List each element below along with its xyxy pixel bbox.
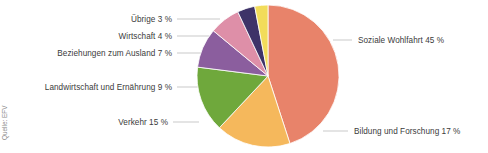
slice-label-wirtschaft: Wirtschaft 4 % bbox=[119, 32, 172, 41]
pie-chart-figure: Soziale Wohlfahrt 45 % Bildung und Forsc… bbox=[0, 0, 488, 153]
slice-label-landwirtschaft-und-ernaehrung: Landwirtschaft und Ernährung 9 % bbox=[45, 83, 172, 92]
slice-label-beziehungen-zum-ausland: Beziehungen zum Ausland 7 % bbox=[57, 49, 172, 58]
slice-label-uebrige: Übrige 3 % bbox=[131, 14, 172, 24]
slice-label-verkehr: Verkehr 15 % bbox=[118, 118, 168, 127]
slice-label-bildung-und-forschung: Bildung und Forschung 17 % bbox=[354, 127, 460, 136]
pie-slices bbox=[197, 5, 339, 147]
pie-chart-svg: Soziale Wohlfahrt 45 % Bildung und Forsc… bbox=[0, 0, 488, 153]
source-note: Quelle: EFV bbox=[1, 105, 9, 140]
slice-label-soziale-wohlfahrt: Soziale Wohlfahrt 45 % bbox=[358, 36, 444, 45]
